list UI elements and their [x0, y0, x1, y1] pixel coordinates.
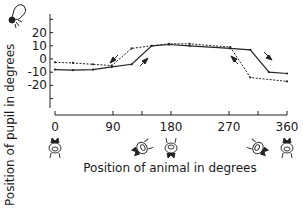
x-tick-label: 90: [105, 120, 120, 134]
data-point: [168, 43, 170, 45]
y-tick-label: -10: [27, 65, 47, 79]
y-tick-label: 20: [32, 26, 47, 40]
chart-canvas: 20100-10-20 090180270360 Position of ani…: [0, 0, 303, 210]
x-axis-title: Position of animal in degrees: [83, 161, 256, 175]
data-point: [72, 62, 74, 64]
data-point: [151, 45, 153, 47]
y-tick-label: 10: [32, 39, 47, 53]
y-tick-label: -20: [27, 78, 47, 92]
data-point: [286, 80, 288, 82]
animal-orientation-icons: [49, 138, 293, 158]
y-axis-title: Position of pupil in degrees: [3, 44, 17, 206]
data-point: [131, 47, 133, 49]
dotted-line-series: [55, 44, 287, 82]
data-point: [72, 69, 74, 71]
x-tick-label: 0: [51, 120, 59, 134]
x-axis: 090180270360: [50, 104, 298, 134]
data-point: [249, 49, 251, 51]
eye-pupil-icon: [9, 5, 26, 28]
data-point: [229, 46, 231, 48]
data-point: [92, 68, 94, 70]
data-point: [92, 63, 94, 65]
data-point: [189, 43, 191, 45]
x-tick-label: 180: [160, 120, 183, 134]
data-point: [249, 76, 251, 78]
x-tick-label: 270: [218, 120, 241, 134]
data-point: [111, 65, 113, 67]
data-point: [54, 61, 56, 63]
plot-series: [54, 43, 288, 83]
data-point: [131, 63, 133, 65]
data-point: [268, 71, 270, 73]
y-tick-label: 0: [39, 52, 47, 66]
direction-arrows: [110, 52, 272, 66]
y-axis: 20100-10-20: [27, 14, 53, 104]
solid-line-series: [55, 45, 287, 74]
data-point: [286, 72, 288, 74]
data-point: [189, 45, 191, 47]
data-point: [54, 68, 56, 70]
x-tick-label: 360: [276, 120, 299, 134]
